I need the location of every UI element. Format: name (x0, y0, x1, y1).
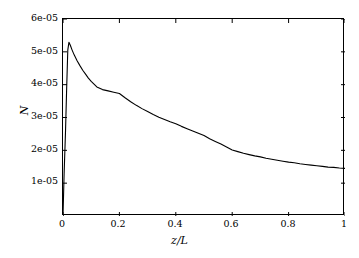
x-tick-label-0-6: 0.6 (211, 219, 251, 229)
x-tick-label-0: 0 (42, 219, 82, 229)
y-tick-label-2e-05: 2e-05 (0, 144, 58, 154)
data-series-line (63, 42, 345, 216)
x-tick-label-0-2: 0.2 (98, 219, 138, 229)
y-tick-label-1e-05: 1e-05 (0, 176, 58, 186)
y-tick-label-5e-05: 5e-05 (0, 46, 58, 56)
y-tick-label-3e-05: 3e-05 (0, 111, 58, 121)
y-tick-label-6e-05: 6e-05 (0, 13, 58, 23)
tick-marks (63, 19, 345, 216)
y-tick-label-4e-05: 4e-05 (0, 78, 58, 88)
x-tick-label-0-4: 0.4 (155, 219, 195, 229)
plot-area (62, 18, 344, 215)
figure-chart-n-vs-z-over-l: N 6e-05 5e-05 4e-05 3e-05 2e-05 1e-05 0 … (0, 0, 359, 258)
x-axis-label: z/L (0, 234, 359, 247)
plot-svg (63, 19, 345, 216)
x-tick-label-1: 1 (324, 219, 359, 229)
x-tick-label-0-8: 0.8 (268, 219, 308, 229)
